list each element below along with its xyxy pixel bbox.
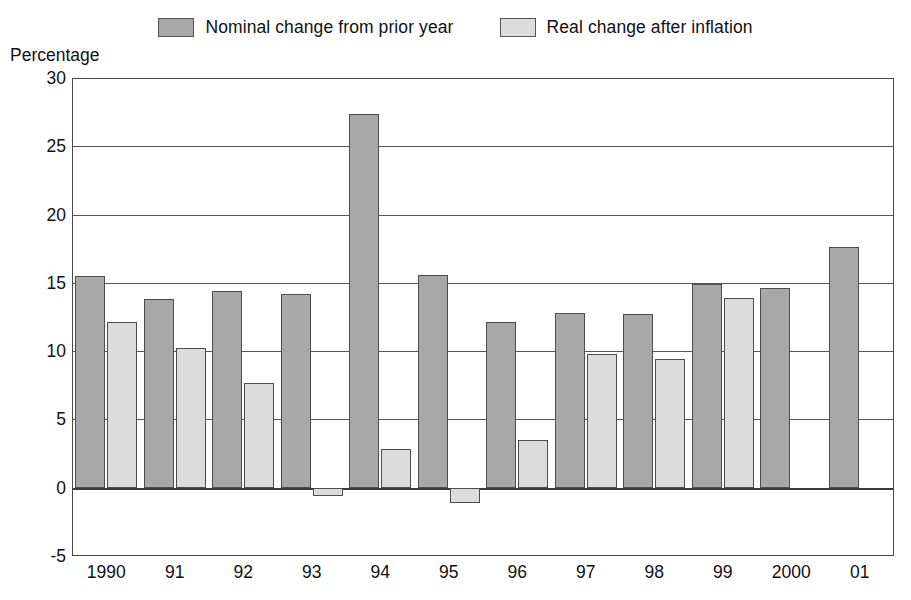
x-tick-label: 91 [165, 562, 184, 583]
legend-swatch-real-icon [500, 18, 536, 37]
legend-entry-nominal: Nominal change from prior year [158, 17, 453, 38]
y-tick-label: 30 [4, 68, 66, 89]
x-tick-label: 95 [439, 562, 458, 583]
x-tick-label: 98 [645, 562, 664, 583]
plot-area [72, 78, 894, 556]
x-tick-label: 2000 [772, 562, 811, 583]
y-tick-label: 5 [4, 409, 66, 430]
x-tick-label: 97 [576, 562, 595, 583]
legend-label-real: Real change after inflation [547, 17, 753, 38]
x-tick-label: 92 [234, 562, 253, 583]
gridline [73, 146, 893, 147]
x-tick-label: 01 [850, 562, 869, 583]
y-tick-label: 10 [4, 341, 66, 362]
bar-chart: Nominal change from prior year Real chan… [0, 0, 911, 600]
y-tick-label: 0 [4, 477, 66, 498]
x-tick-label: 1990 [87, 562, 126, 583]
zero-line [73, 488, 893, 490]
x-tick-label: 94 [371, 562, 390, 583]
gridline [73, 351, 893, 352]
y-axis-title: Percentage [10, 45, 100, 66]
y-tick-label: 15 [4, 272, 66, 293]
legend-swatch-nominal-icon [158, 18, 194, 37]
x-tick-label: 96 [508, 562, 527, 583]
x-axis-tick-labels: 1990919293949596979899200001 [72, 562, 894, 594]
x-tick-label: 99 [713, 562, 732, 583]
gridline [73, 283, 893, 284]
gridline [73, 215, 893, 216]
x-tick-label: 93 [302, 562, 321, 583]
chart-legend: Nominal change from prior year Real chan… [0, 10, 911, 44]
gridline [73, 419, 893, 420]
y-tick-label: 25 [4, 136, 66, 157]
legend-entry-real: Real change after inflation [500, 17, 753, 38]
y-tick-label: 20 [4, 204, 66, 225]
legend-label-nominal: Nominal change from prior year [205, 17, 453, 38]
y-tick-label: -5 [4, 546, 66, 567]
y-axis-tick-labels: 302520151050-5 [0, 78, 66, 556]
